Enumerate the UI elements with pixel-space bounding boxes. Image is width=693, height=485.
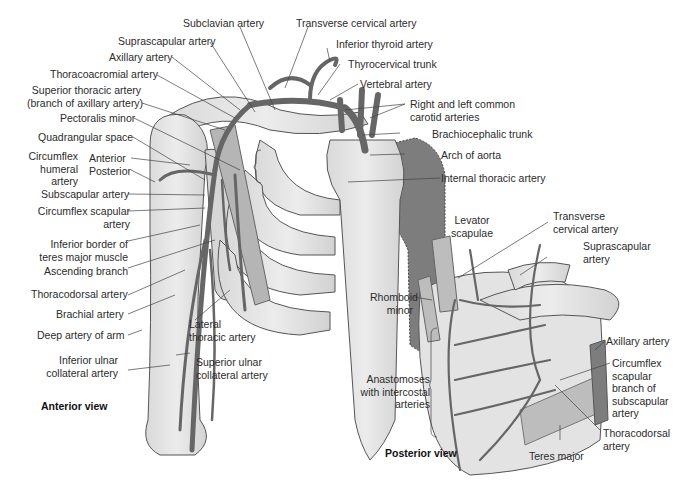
label-thyrocervical-trunk: Thyrocervical trunk: [348, 58, 437, 71]
label-rhomboid-minor: Rhomboid minor: [370, 291, 413, 316]
label-line: with intercostal: [338, 386, 430, 399]
carotid-2: [360, 90, 362, 135]
label-line: Suprascapular: [583, 240, 651, 253]
label-axillary-artery: Axillary artery: [109, 51, 173, 64]
label-line: Superior ulnar: [196, 356, 268, 369]
label-line: Transverse: [553, 210, 618, 223]
label-axillary-artery-posterior: Axillary artery: [606, 335, 670, 348]
label-line: Levator: [446, 214, 498, 227]
label-line: cervical artery: [553, 223, 618, 236]
label-thoracodorsal-artery-posterior: Thoracodorsal artery: [603, 427, 670, 452]
label-line: Superior thoracic artery: [27, 84, 141, 97]
label-line: Inferior ulnar: [20, 354, 118, 367]
anterior-view-title: Anterior view: [41, 400, 108, 413]
label-ascending-branch: Ascending branch: [44, 265, 128, 278]
label-line: Thoracodorsal: [603, 427, 670, 440]
label-line: Circumflex: [20, 150, 78, 163]
label-line: subscapular: [612, 395, 669, 408]
label-line: Anastomoses: [338, 373, 430, 386]
label-line: carotid arteries: [410, 111, 515, 124]
label-suprascapular-artery-posterior: Suprascapular artery: [583, 240, 651, 265]
label-line: Inferior border of: [20, 238, 128, 251]
humerus: [146, 114, 208, 455]
label-line: Rhomboid: [370, 291, 413, 304]
label-thoracodorsal-artery: Thoracodorsal artery: [31, 288, 128, 301]
label-posterior: Posterior: [89, 165, 131, 178]
label-lateral-thoracic-artery: Lateral thoracic artery: [189, 318, 256, 343]
label-line: thoracic artery: [189, 331, 256, 344]
label-line: artery: [583, 253, 651, 266]
label-line: collateral artery: [20, 367, 118, 380]
label-line: minor: [370, 304, 413, 317]
label-line: arteries: [338, 398, 430, 411]
label-transverse-cervical-artery: Transverse cervical artery: [296, 17, 416, 30]
label-superior-ulnar-collateral-artery: Superior ulnar collateral artery: [196, 356, 268, 381]
label-brachial-artery: Brachial artery: [56, 308, 124, 321]
label-inferior-border-teres-major: Inferior border of teres major muscle: [20, 238, 128, 263]
label-quadrangular-space: Quadrangular space: [38, 131, 133, 144]
label-subscapular-artery: Subscapular artery: [41, 188, 129, 201]
label-inferior-thyroid-artery: Inferior thyroid artery: [336, 38, 433, 51]
label-circumflex-scapular-branch: Circumflex scapular branch of subscapula…: [612, 357, 669, 420]
carotid-1: [340, 100, 342, 130]
label-circumflex-scapular-artery: Circumflex scapular artery: [20, 205, 130, 230]
label-line: humeral: [20, 163, 78, 176]
label-line: (branch of axillary artery): [27, 97, 141, 110]
label-line: branch of: [612, 382, 669, 395]
label-anterior: Anterior: [89, 152, 126, 165]
label-brachiocephalic-trunk: Brachiocephalic trunk: [432, 128, 532, 141]
label-line: artery: [20, 175, 78, 188]
thyrocervical-trunk-shape: [310, 58, 337, 100]
label-line: Circumflex: [612, 357, 669, 370]
label-teres-major: Teres major: [529, 450, 584, 463]
label-pectoralis-minor: Pectoralis minor: [60, 112, 135, 125]
label-inferior-ulnar-collateral-artery: Inferior ulnar collateral artery: [20, 354, 118, 379]
label-line: Right and left common: [410, 98, 515, 111]
label-suprascapular-artery: Suprascapular artery: [118, 35, 215, 48]
label-transverse-cervical-artery-posterior: Transverse cervical artery: [553, 210, 618, 235]
label-line: collateral artery: [196, 369, 268, 382]
label-anastomoses-intercostal: Anastomoses with intercostal arteries: [338, 373, 430, 411]
label-vertebral-artery: Vertebral artery: [360, 78, 432, 91]
label-subclavian-artery: Subclavian artery: [183, 17, 264, 30]
label-line: Circumflex scapular: [20, 205, 130, 218]
label-thoracoacromial-artery: Thoracoacromial artery: [50, 68, 158, 81]
label-internal-thoracic-artery: Internal thoracic artery: [441, 172, 545, 185]
label-line: scapulae: [446, 227, 498, 240]
transverse-cervical-shape: [270, 78, 310, 88]
label-line: artery: [612, 407, 669, 420]
label-line: artery: [20, 218, 130, 231]
label-circumflex-humeral-artery: Circumflex humeral artery: [20, 150, 78, 188]
label-line: Lateral: [189, 318, 256, 331]
label-levator-scapulae: Levator scapulae: [446, 214, 498, 239]
label-arch-of-aorta: Arch of aorta: [441, 149, 501, 162]
label-common-carotid-arteries: Right and left common carotid arteries: [410, 98, 515, 123]
label-line: artery: [603, 440, 670, 453]
label-line: scapular: [612, 370, 669, 383]
posterior-view-title: Posterior view: [385, 447, 457, 460]
label-deep-artery-of-arm: Deep artery of arm: [37, 329, 125, 342]
label-line: teres major muscle: [20, 251, 128, 264]
posterior-view-drawing: [418, 236, 619, 475]
label-superior-thoracic-artery: Superior thoracic artery (branch of axil…: [27, 84, 141, 109]
